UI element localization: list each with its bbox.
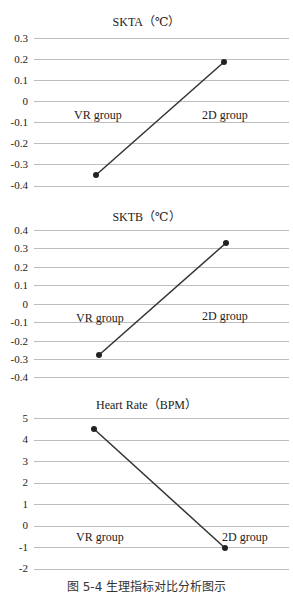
line-series [0,0,293,195]
data-point [222,545,228,551]
data-point [223,240,229,246]
data-point [91,426,97,432]
figure-caption: 图 5-4 生理指标对比分析图示 [0,577,293,593]
data-point [96,352,102,358]
chart-sktb: SKTB（℃） 0.4 0.3 0.2 0.1 0 -0.1 -0.2 -0.3… [0,195,293,390]
data-point [93,172,99,178]
line-series [0,195,293,390]
chart-skta: SKTA（℃） 0.3 0.2 0.1 0 -0.1 -0.2 -0.3 -0.… [0,0,293,195]
data-point [221,59,227,65]
chart-heart-rate: Heart Rate（BPM） 5 4 3 2 1 0 -1 -2 VR gro… [0,390,293,577]
line-series [0,390,293,580]
